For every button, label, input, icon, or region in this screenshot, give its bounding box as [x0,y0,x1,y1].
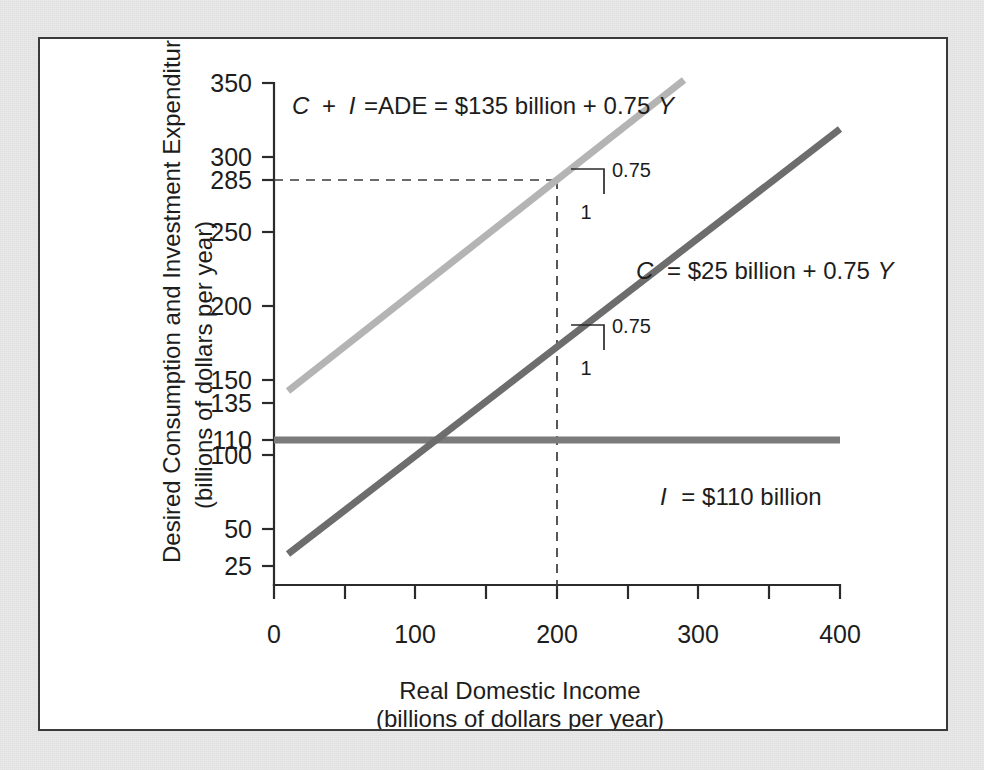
x-axis-title: Real Domestic Income (billions of dollar… [376,677,664,729]
x-tick-label-100: 100 [394,620,436,648]
x-tick-label-0: 0 [267,620,281,648]
y-tick-label-350: 350 [210,69,252,97]
annotation-c-y: Y [878,257,896,284]
y-tick-label-285: 285 [210,166,252,194]
slope-label-ade-rise: 0.75 [612,159,651,181]
x-tick-label-300: 300 [677,620,719,648]
x-axis-title-line2: (billions of dollars per year) [376,705,664,729]
x-tick-label-200: 200 [536,620,578,648]
x-tick-labels: 0 100 200 300 400 [267,620,861,648]
annotation-c-rest: = $25 billion + 0.75 [667,257,870,284]
annotation-ade-equation: C + I =ADE = $135 billion + 0.75 Y [292,92,676,119]
figure-frame: 350 300 285 250 200 150 135 110 100 50 2… [38,37,948,731]
y-tick-label-25: 25 [224,552,252,580]
x-tick-label-400: 400 [819,620,861,648]
chart-svg: 350 300 285 250 200 150 135 110 100 50 2… [40,39,946,729]
y-axis-title-line1: Desired Consumption and Investment Expen… [158,39,185,563]
x-axis-title-line1: Real Domestic Income [399,677,640,704]
slope-triangle-ade [571,169,604,194]
annotation-c-equation: C = $25 billion + 0.75 Y [636,257,896,284]
annotation-i-equation: I = $110 billion [660,483,822,510]
y-tick-label-50: 50 [224,515,252,543]
annotation-i-i: I [660,483,667,510]
slope-label-c-run: 1 [580,357,591,379]
annotation-c-c: C [636,257,654,284]
y-axis-title-line2: (billions of dollars per year) [190,221,217,509]
plot-area: 350 300 285 250 200 150 135 110 100 50 2… [40,39,946,729]
slope-label-c-rise: 0.75 [612,315,651,337]
annotation-i-rest: = $110 billion [681,483,821,510]
y-tick-marks [262,83,274,566]
annotation-ade-c: C [292,92,310,119]
y-axis-title: Desired Consumption and Investment Expen… [158,39,217,563]
annotation-ade-i: I [349,92,356,119]
annotation-ade-y: Y [658,92,676,119]
figure-page: 350 300 285 250 200 150 135 110 100 50 2… [0,0,984,770]
annotation-ade-plus: + [322,92,336,119]
annotation-ade-rest: =ADE = $135 billion + 0.75 [364,92,650,119]
series-line-ade [288,80,684,391]
slope-label-ade-run: 1 [580,201,591,223]
